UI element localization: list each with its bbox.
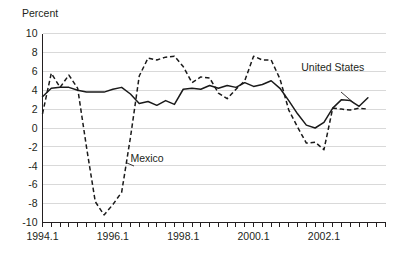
x-tick-label: 1994.1: [26, 230, 58, 242]
series-line-united-states: [43, 81, 368, 128]
y-tick-label: 6: [32, 65, 38, 77]
y-tick-label: -10: [22, 216, 37, 228]
x-axis-tick-labels: 1994.11996.11998.12000.12002.1: [26, 230, 340, 242]
chart-canvas: 1086420-2-4-6-8-10 1994.11996.11998.1200…: [0, 0, 401, 272]
percent-growth-line-chart: 1086420-2-4-6-8-10 1994.11996.11998.1200…: [0, 0, 401, 272]
x-tick-label: 1996.1: [97, 230, 129, 242]
gridlines-group: [43, 34, 386, 204]
x-tick-label: 2000.1: [238, 230, 270, 242]
annotation-leader-line: [341, 92, 355, 104]
y-tick-label: -2: [28, 141, 37, 153]
y-tick-label: -4: [28, 160, 37, 172]
y-tick-label: -6: [28, 178, 37, 190]
y-tick-label: 10: [26, 27, 38, 39]
x-tick-label: 1998.1: [167, 230, 199, 242]
series-line-mexico: [43, 56, 368, 215]
y-tick-label: 0: [32, 122, 38, 134]
x-tick-label: 2002.1: [308, 230, 340, 242]
y-tick-label: 8: [32, 46, 38, 58]
y-axis-title: Percent: [22, 7, 58, 19]
data-series-group: [43, 56, 368, 215]
y-tick-label: 2: [32, 103, 38, 115]
annotation-label-united-states: United States: [301, 61, 364, 73]
annotation-label-mexico: Mexico: [130, 152, 163, 164]
y-tick-label: -8: [28, 197, 37, 209]
y-axis-tick-labels: 1086420-2-4-6-8-10: [22, 27, 37, 228]
y-tick-label: 4: [32, 84, 38, 96]
